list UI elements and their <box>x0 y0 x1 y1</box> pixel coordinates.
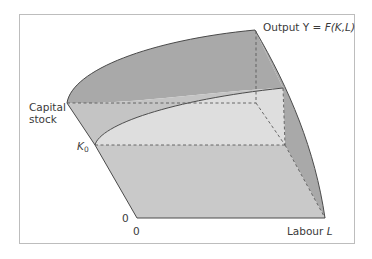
origin-k-label: 0 <box>122 212 129 224</box>
output-label: Output Y = F(K,L) <box>263 21 355 33</box>
k0-symbol: K <box>77 140 84 152</box>
production-surface-diagram <box>0 0 372 259</box>
k0-label: K0 <box>77 140 89 155</box>
origin-l-label: 0 <box>133 225 140 237</box>
output-label-prefix: Output Y = <box>263 21 325 33</box>
capital-stock-label: Capital stock <box>29 101 66 125</box>
labour-label-prefix: Labour <box>287 225 327 237</box>
capital-label-line1: Capital <box>29 101 66 113</box>
output-function: F(K,L) <box>325 21 355 33</box>
k0-subscript: 0 <box>84 145 89 154</box>
labour-label: Labour L <box>287 225 333 237</box>
labour-symbol: L <box>327 225 333 237</box>
capital-label-line2: stock <box>29 113 66 125</box>
